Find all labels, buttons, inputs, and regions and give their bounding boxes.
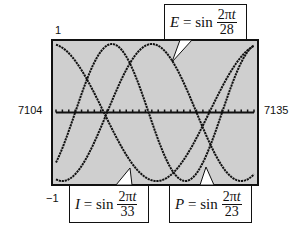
eq-sin: = sin (184, 196, 217, 212)
denominator-e: 28 (220, 23, 234, 37)
numerator: 2π (218, 7, 232, 22)
callout-e: E = sin 2πt 28 (164, 4, 247, 40)
fraction-i: 2πt 33 (117, 190, 137, 219)
eq-sin: = sin (179, 14, 212, 30)
denominator-p: 23 (225, 205, 239, 219)
fraction-e: 2πt 28 (217, 8, 237, 37)
y-max-label: 1 (55, 24, 61, 36)
numerator: 2π (223, 189, 237, 204)
numerator-var: t (237, 189, 241, 204)
numerator-var: t (133, 189, 137, 204)
y-min-label: −1 (46, 192, 59, 204)
fraction-p: 2πt 23 (222, 190, 242, 219)
callout-i: I = sin 2πt 33 (69, 185, 149, 223)
eq-sin: = sin (80, 196, 113, 212)
x-min-label: 7104 (18, 104, 42, 116)
numerator-var: t (232, 7, 236, 22)
numerator: 2π (118, 189, 132, 204)
var-p: P (175, 196, 184, 212)
sine-chart (0, 0, 300, 229)
x-max-label: 7135 (264, 104, 288, 116)
callout-p: P = sin 2πt 23 (169, 185, 252, 223)
denominator-i: 33 (120, 205, 134, 219)
var-e: E (170, 14, 179, 30)
